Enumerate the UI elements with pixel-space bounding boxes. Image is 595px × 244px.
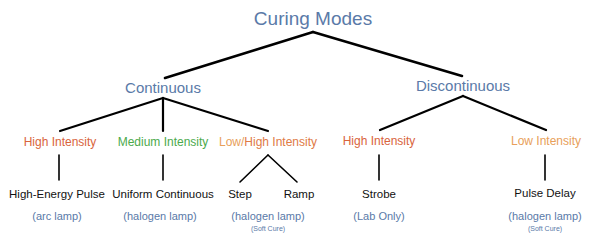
note-soft-cure-step-ramp: (Soft Cure): [251, 225, 285, 232]
intensity-low-part: Low/: [219, 135, 244, 149]
intensity-high-part: High Intensity: [244, 135, 317, 149]
technique-pulse-delay: Pulse Delay: [514, 188, 575, 200]
note-soft-cure-pulse-delay: (Soft Cure): [528, 225, 562, 232]
edge-continuous-high: [60, 98, 163, 131]
edge-discontinuous-low: [463, 96, 546, 130]
intensity-discontinuous-low: Low Intensity: [511, 135, 581, 147]
source-lab-only: (Lab Only): [353, 211, 404, 222]
source-halogen-uniform: (halogen lamp): [123, 211, 196, 222]
technique-strobe: Strobe: [362, 189, 396, 201]
source-halogen-step-ramp: (halogen lamp): [231, 211, 304, 222]
intensity-continuous-lowhigh: Low/High Intensity: [219, 136, 317, 148]
intensity-continuous-high: High Intensity: [24, 136, 97, 148]
edge-discontinuous-high: [380, 96, 463, 130]
technique-step: Step: [228, 189, 252, 201]
technique-uniform-continuous: Uniform Continuous: [112, 189, 214, 201]
edge-lowhigh-step: [240, 155, 268, 182]
intensity-continuous-medium: Medium Intensity: [118, 136, 209, 148]
mode-discontinuous: Discontinuous: [416, 78, 510, 93]
mode-continuous: Continuous: [125, 80, 201, 95]
source-halogen-pulse-delay: (halogen lamp): [508, 211, 581, 222]
edge-continuous-lowhigh: [163, 98, 268, 131]
technique-ramp: Ramp: [284, 189, 315, 201]
diagram-title: Curing Modes: [254, 9, 372, 28]
source-arc-lamp: (arc lamp): [32, 211, 82, 222]
intensity-discontinuous-high: High Intensity: [343, 135, 416, 147]
edge-root-discontinuous: [313, 32, 462, 76]
edge-lowhigh-ramp: [268, 155, 297, 182]
edge-root-continuous: [165, 32, 313, 78]
tree-edges: [0, 0, 595, 244]
technique-high-energy-pulse: High-Energy Pulse: [9, 189, 105, 201]
